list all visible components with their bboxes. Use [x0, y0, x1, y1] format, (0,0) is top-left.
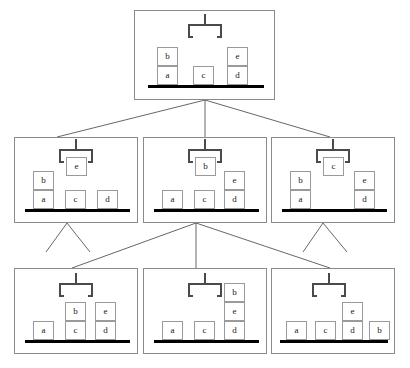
- block-c: c: [65, 321, 86, 340]
- block-b: b: [224, 283, 245, 302]
- leaf-state-b-on-e[interactable]: acdeb: [143, 268, 267, 354]
- gripper-claw: [312, 282, 346, 306]
- stub-left-node-a: [46, 223, 67, 252]
- state-illustration: abcde: [135, 11, 274, 99]
- stub-left-node-b: [67, 223, 90, 252]
- state-illustration: eabcd: [15, 138, 137, 222]
- state-illustration: bacde: [144, 138, 266, 222]
- block-d: d: [227, 66, 248, 85]
- table-surface: [282, 209, 387, 212]
- block-b: b: [195, 157, 216, 176]
- gripper-crossbar: [312, 283, 346, 285]
- block-a: a: [286, 321, 307, 340]
- root-state[interactable]: abcde: [134, 10, 275, 100]
- block-e: e: [227, 47, 248, 66]
- state-illustration: cabde: [272, 138, 394, 222]
- block-e: e: [224, 171, 245, 190]
- block-a: a: [157, 66, 178, 85]
- edge-center-to-leaf-1: [72, 223, 196, 268]
- gripper-foot-right: [217, 295, 222, 297]
- table-surface: [25, 340, 130, 343]
- middle-state-hold-b[interactable]: bacde: [143, 137, 267, 223]
- leaf-state-b-on-c[interactable]: acbde: [14, 268, 138, 354]
- gripper-foot-right: [217, 161, 222, 163]
- block-e: e: [354, 171, 375, 190]
- block-d: d: [342, 321, 363, 340]
- table-surface: [280, 340, 388, 343]
- block-e: e: [66, 157, 87, 176]
- block-c: c: [65, 190, 86, 209]
- gripper-foot-right: [217, 36, 222, 38]
- middle-state-hold-e[interactable]: eabcd: [14, 137, 138, 223]
- block-b: b: [33, 171, 54, 190]
- gripper-crossbar: [188, 283, 222, 285]
- table-surface: [154, 209, 259, 212]
- state-illustration: acbde: [15, 269, 137, 353]
- block-c: c: [193, 66, 214, 85]
- gripper-foot-left: [188, 161, 193, 163]
- gripper-foot-left: [188, 36, 193, 38]
- gripper-foot-right: [341, 295, 346, 297]
- gripper-crossbar: [59, 149, 93, 151]
- block-a: a: [290, 190, 311, 209]
- block-a: a: [162, 190, 183, 209]
- block-a: a: [33, 190, 54, 209]
- gripper-foot-right: [88, 295, 93, 297]
- block-b: b: [369, 321, 390, 340]
- gripper-claw: [188, 282, 222, 306]
- block-e: e: [95, 302, 116, 321]
- gripper-foot-left: [59, 161, 64, 163]
- block-b: b: [65, 302, 86, 321]
- block-a: a: [33, 321, 54, 340]
- block-e: e: [224, 302, 245, 321]
- block-a: a: [162, 321, 183, 340]
- edge-root-to-right: [205, 100, 330, 137]
- gripper-crossbar: [59, 283, 93, 285]
- block-c: c: [194, 321, 215, 340]
- leaf-state-b-on-table[interactable]: acdeb: [271, 268, 395, 354]
- block-b: b: [157, 47, 178, 66]
- gripper-foot-left: [312, 295, 317, 297]
- gripper-foot-left: [188, 295, 193, 297]
- table-surface: [25, 209, 130, 212]
- stub-right-node-a: [303, 223, 323, 252]
- block-e: e: [342, 302, 363, 321]
- search-tree-diagram: abcdeeabcdbacdecabdeacbdeacdebacdeb: [0, 0, 410, 368]
- gripper-foot-left: [316, 161, 321, 163]
- gripper-crossbar: [316, 149, 350, 151]
- block-d: d: [95, 321, 116, 340]
- gripper-foot-right: [88, 161, 93, 163]
- gripper-crossbar: [188, 24, 222, 26]
- gripper-claw: [188, 23, 222, 47]
- state-illustration: acdeb: [272, 269, 394, 353]
- stub-right-node-b: [323, 223, 347, 252]
- edge-center-to-leaf-3: [196, 223, 330, 268]
- table-surface: [148, 85, 264, 88]
- block-d: d: [97, 190, 118, 209]
- block-b: b: [290, 171, 311, 190]
- gripper-foot-left: [59, 295, 64, 297]
- state-illustration: acdeb: [144, 269, 266, 353]
- block-d: d: [224, 321, 245, 340]
- gripper-crossbar: [188, 149, 222, 151]
- block-c: c: [315, 321, 336, 340]
- gripper-foot-right: [345, 161, 350, 163]
- table-surface: [154, 340, 259, 343]
- block-d: d: [354, 190, 375, 209]
- block-c: c: [323, 157, 344, 176]
- edge-root-to-left: [57, 100, 205, 137]
- middle-state-hold-c[interactable]: cabde: [271, 137, 395, 223]
- block-d: d: [224, 190, 245, 209]
- block-c: c: [194, 190, 215, 209]
